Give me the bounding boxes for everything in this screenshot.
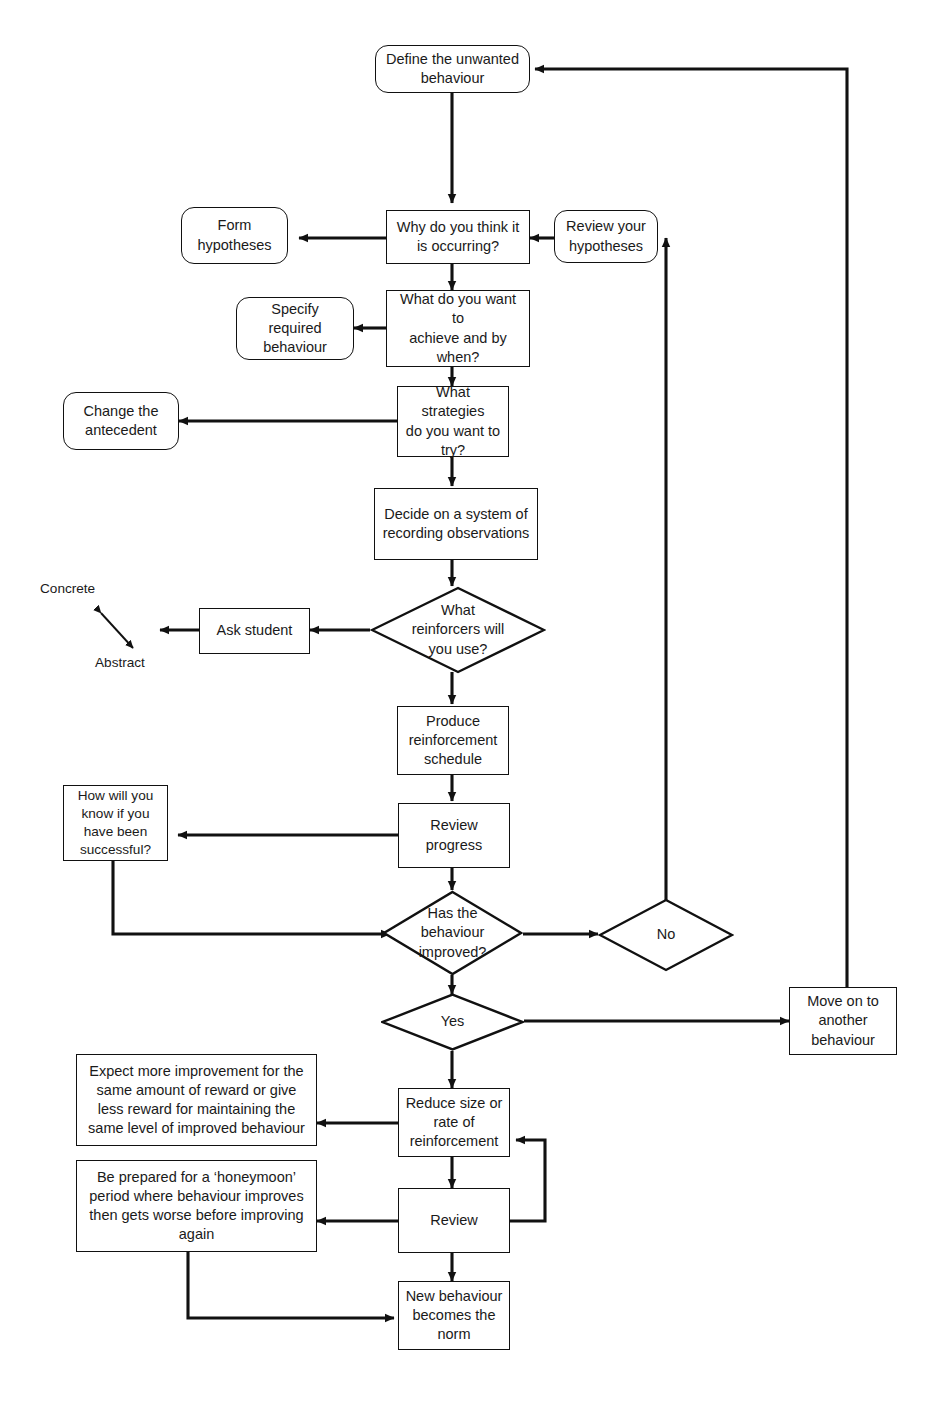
node-why-occurring[interactable]: Why do you think it is occurring? — [386, 210, 530, 264]
node-what-strategies[interactable]: What strategies do you want to try? — [397, 386, 509, 457]
node-label: What strategies do you want to try? — [398, 383, 508, 460]
node-no[interactable]: No — [598, 898, 734, 972]
node-label: Review — [425, 1211, 483, 1230]
node-label: Yes — [436, 1012, 470, 1031]
node-reduce-size[interactable]: Reduce size or rate of reinforcement — [398, 1088, 510, 1157]
node-what-reinforcers[interactable]: What reinforcers will you use? — [370, 586, 546, 674]
node-specify-behaviour[interactable]: Specify required behaviour — [236, 297, 354, 360]
node-how-know-successful[interactable]: How will you know if you have been succe… — [63, 785, 168, 861]
node-label: How will you know if you have been succe… — [73, 787, 159, 859]
node-label: Review your hypotheses — [561, 217, 651, 255]
node-label: Decide on a system of recording observat… — [378, 505, 535, 543]
node-has-improved[interactable]: Has the behaviour improved? — [382, 890, 523, 976]
node-yes[interactable]: Yes — [381, 993, 524, 1051]
node-form-hypotheses[interactable]: Form hypotheses — [181, 207, 288, 264]
node-label: What do you want to achieve and by when? — [387, 290, 529, 367]
node-label: Specify required behaviour — [258, 300, 332, 357]
node-label: Reduce size or rate of reinforcement — [401, 1094, 508, 1151]
node-new-behaviour-norm[interactable]: New behaviour becomes the norm — [398, 1281, 510, 1350]
node-review[interactable]: Review — [398, 1188, 510, 1253]
node-change-antecedent[interactable]: Change the antecedent — [63, 392, 179, 450]
node-label: No — [652, 925, 681, 944]
annotation-abstract: Abstract — [95, 655, 145, 670]
node-expect-more-improvement[interactable]: Expect more improvement for the same amo… — [76, 1054, 317, 1146]
flowchart-canvas: Define the unwanted behaviour Form hypot… — [0, 0, 937, 1407]
node-label: Review progress — [399, 816, 509, 854]
node-define-behaviour[interactable]: Define the unwanted behaviour — [375, 45, 530, 93]
node-label: Be prepared for a ‘honeymoon’ period whe… — [84, 1168, 308, 1245]
node-label: Move on to another behaviour — [802, 992, 884, 1049]
node-label: Ask student — [212, 621, 298, 640]
node-label: Has the behaviour improved? — [414, 904, 492, 961]
node-ask-student[interactable]: Ask student — [199, 608, 310, 654]
node-move-on[interactable]: Move on to another behaviour — [789, 987, 897, 1055]
node-honeymoon-note[interactable]: Be prepared for a ‘honeymoon’ period whe… — [76, 1160, 317, 1252]
node-label: New behaviour becomes the norm — [401, 1287, 508, 1344]
node-decide-recording[interactable]: Decide on a system of recording observat… — [374, 488, 538, 560]
node-label: Produce reinforcement schedule — [404, 712, 503, 769]
node-label: Why do you think it is occurring? — [392, 218, 525, 256]
node-label: Expect more improvement for the same amo… — [83, 1062, 310, 1139]
node-label: Change the antecedent — [79, 402, 164, 440]
node-label: What reinforcers will you use? — [407, 601, 510, 658]
annotation-concrete: Concrete — [40, 581, 95, 596]
node-review-hypotheses[interactable]: Review your hypotheses — [554, 210, 658, 263]
node-label: Form hypotheses — [192, 216, 276, 254]
node-produce-schedule[interactable]: Produce reinforcement schedule — [397, 706, 509, 775]
node-achieve-when[interactable]: What do you want to achieve and by when? — [386, 290, 530, 367]
node-review-progress[interactable]: Review progress — [398, 803, 510, 868]
node-label: Define the unwanted behaviour — [381, 50, 524, 88]
